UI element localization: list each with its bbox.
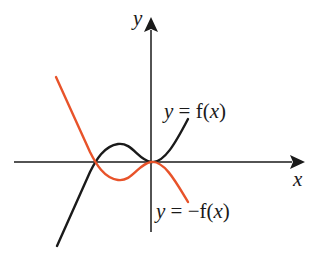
f-label-x: x [210,99,219,123]
nf-label-eq: = −f( [165,199,213,223]
y-axis-label: y [133,6,142,31]
x-axis-label: x [293,167,302,192]
curve-neg-f [56,77,188,202]
f-label-close: ) [219,99,226,123]
y-axis-arrow-icon [144,17,158,32]
curve-f [57,119,188,246]
f-label-eq: = f( [173,99,209,123]
function-reflection-diagram: y x y = f(x) y = −f(x) [0,0,332,263]
neg-f-curve-label: y = −f(x) [156,199,230,224]
f-curve-label: y = f(x) [164,99,226,124]
f-label-y: y [164,99,173,123]
nf-label-y: y [156,199,165,223]
nf-label-close: ) [223,199,230,223]
nf-label-x: x [214,199,223,223]
